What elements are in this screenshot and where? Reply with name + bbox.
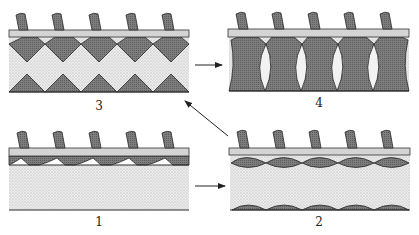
stalks: [17, 131, 174, 148]
membrane-bar: [229, 148, 410, 155]
panel-label-1: 1: [89, 215, 109, 229]
panel-4: [228, 12, 409, 91]
membrane-bar: [9, 30, 189, 37]
diagram-canvas: [0, 0, 419, 235]
stippled-region: [9, 165, 189, 210]
stalks: [236, 12, 392, 29]
panel-label-3: 3: [89, 99, 109, 113]
membrane-bar: [228, 29, 409, 37]
panel-3: [9, 13, 189, 92]
membrane-bar: [9, 148, 189, 156]
scalloped-cells: [9, 156, 189, 165]
panel-label-4: 4: [309, 96, 329, 110]
upper-lens-cells: [231, 158, 409, 168]
stalks: [237, 130, 393, 148]
panel-label-2: 2: [309, 215, 329, 229]
hourglass-columns: [229, 37, 409, 91]
stalks: [16, 13, 174, 30]
panel-1: [9, 131, 189, 210]
arrow-2-to-3: [185, 101, 228, 136]
panel-2: [229, 130, 410, 210]
